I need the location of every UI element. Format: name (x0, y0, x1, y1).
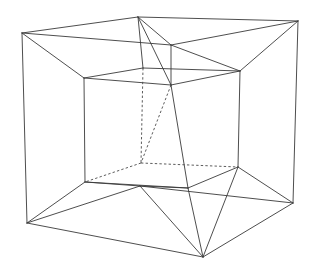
figure-root (0, 0, 317, 275)
tesseract-wireframe (0, 0, 317, 275)
figure-background (0, 0, 317, 275)
